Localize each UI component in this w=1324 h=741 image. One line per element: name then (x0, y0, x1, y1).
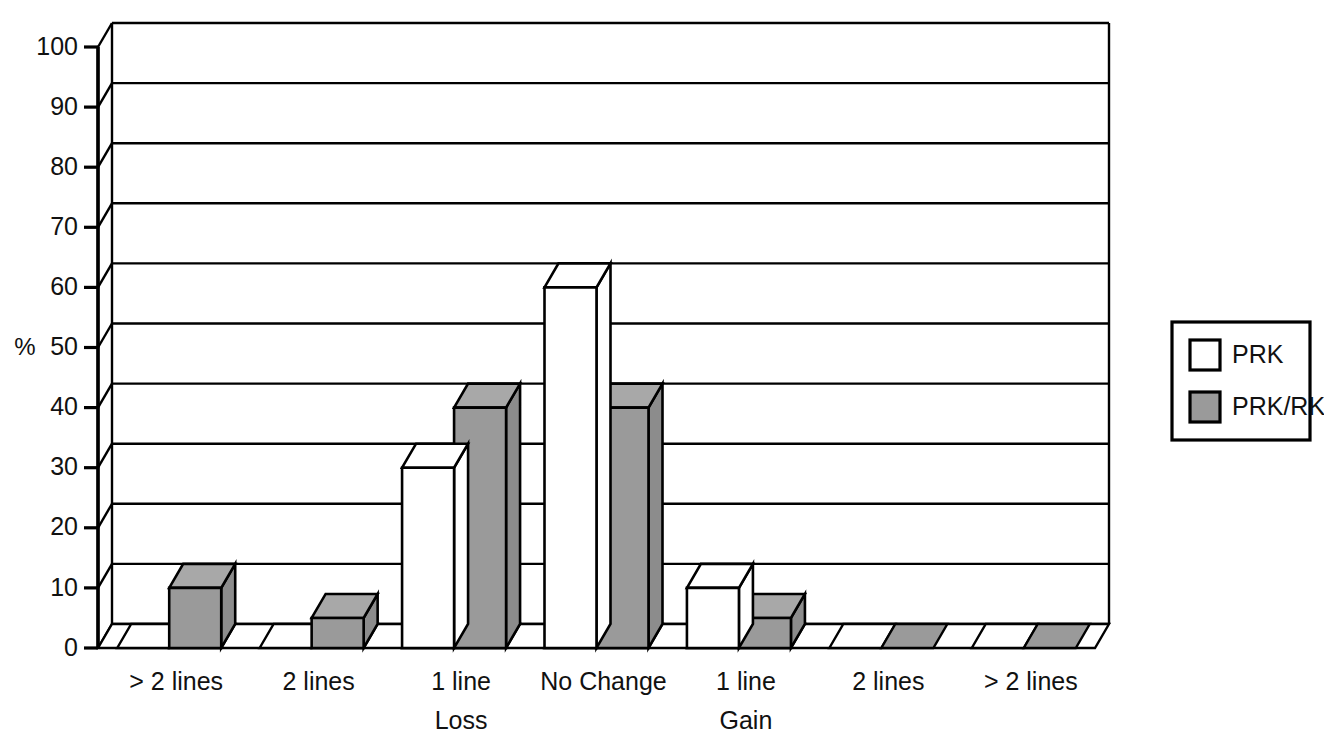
x-category-label: 1 line (431, 667, 491, 695)
y-tick-label: 10 (50, 573, 78, 601)
legend-label-prk-rk: PRK/RK (1232, 392, 1324, 420)
legend-swatch-prk-rk (1190, 392, 1220, 422)
x-axis-category-labels: > 2 lines2 lines1 lineNo Change1 line2 l… (129, 667, 1077, 734)
legend-swatch-prk (1190, 340, 1220, 370)
bar-chart: 1009080706050403020100% > 2 lines2 lines… (0, 0, 1324, 741)
y-tick-label: 20 (50, 512, 78, 540)
x-category-label: 2 lines (283, 667, 355, 695)
y-tick-label: 0 (64, 633, 78, 661)
y-tick-label: 40 (50, 392, 78, 420)
x-category-label: No Change (540, 667, 666, 695)
y-tick-label: 30 (50, 452, 78, 480)
legend-label-prk: PRK (1232, 340, 1284, 368)
y-tick-label: 50 (50, 332, 78, 360)
bar-prk-rk-0 (169, 564, 235, 648)
y-axis (84, 47, 98, 648)
bar-prk-4 (687, 564, 753, 648)
x-category-label: > 2 lines (984, 667, 1078, 695)
chart-container: 1009080706050403020100% > 2 lines2 lines… (0, 0, 1324, 741)
x-category-label: > 2 lines (129, 667, 223, 695)
bar-prk-3 (545, 263, 611, 648)
y-tick-label: 60 (50, 272, 78, 300)
bar-prk-rk-1 (312, 594, 378, 648)
bar-prk-2 (402, 444, 468, 648)
chart-legend: PRKPRK/RK (1172, 322, 1324, 440)
x-category-label: 1 line (716, 667, 776, 695)
y-tick-label: 100 (36, 32, 78, 60)
y-tick-label: 70 (50, 212, 78, 240)
y-tick-label: 90 (50, 92, 78, 120)
y-axis-unit-label: % (14, 333, 35, 360)
x-group-label: Gain (720, 706, 773, 734)
y-axis-tick-labels: 1009080706050403020100% (14, 32, 78, 661)
y-tick-label: 80 (50, 152, 78, 180)
x-category-label: 2 lines (852, 667, 924, 695)
x-group-label: Loss (435, 706, 488, 734)
